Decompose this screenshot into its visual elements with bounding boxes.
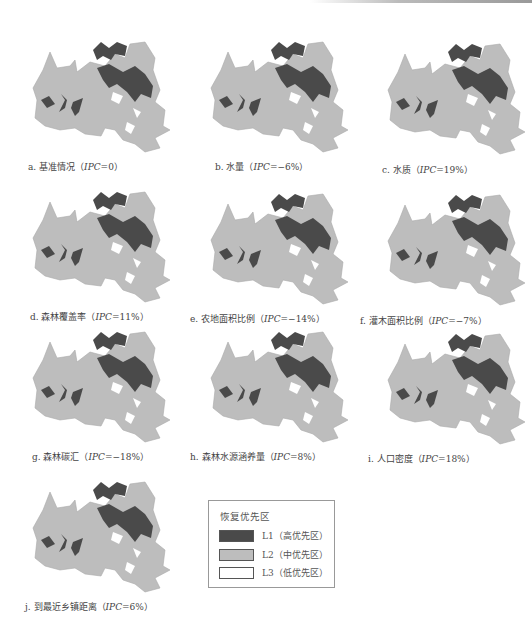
map-caption-a: a. 基准情况（IPC=0）	[28, 160, 123, 173]
map-panel-i	[360, 322, 530, 472]
map-panel-d	[5, 180, 175, 330]
legend-swatch-high	[219, 530, 254, 542]
legend-title: 恢复优先区	[220, 509, 270, 523]
map-shape	[360, 32, 530, 162]
map-shape	[5, 30, 175, 160]
map-panel-e	[183, 182, 353, 332]
map-shape	[360, 183, 530, 313]
legend-item-l3: L3（低优先区）	[219, 566, 328, 579]
page-edge-line	[310, 0, 532, 3]
map-shape	[5, 180, 175, 310]
legend: 恢复优先区 L1（高优先区） L2（中优先区） L3（低优先区）	[208, 500, 335, 588]
map-caption-b: b. 水量（IPC=−6%）	[215, 160, 308, 173]
map-panel-h	[183, 320, 353, 470]
map-panel-j	[5, 470, 175, 617]
legend-label-l3: L3（低优先区）	[262, 566, 328, 579]
legend-item-l2: L2（中优先区）	[219, 548, 328, 561]
legend-item-l1: L1（高优先区）	[219, 529, 328, 542]
legend-label-l2: L2（中优先区）	[262, 548, 328, 561]
map-panel-b	[183, 30, 353, 180]
map-caption-g: g. 森林碳汇（IPC=−18%）	[32, 450, 149, 463]
map-shape	[183, 182, 353, 312]
map-panel-g	[5, 320, 175, 470]
map-shape	[183, 30, 353, 160]
map-shape	[5, 470, 175, 600]
map-shape	[360, 322, 530, 452]
map-panel-a	[5, 30, 175, 180]
map-shape	[183, 320, 353, 450]
map-caption-h: h. 森林水源涵养量（IPC=8%）	[190, 450, 321, 463]
map-panel-f	[360, 183, 530, 333]
map-shape	[5, 320, 175, 450]
legend-label-l1: L1（高优先区）	[262, 529, 328, 542]
map-caption-c: c. 水质（IPC=19%）	[382, 163, 473, 176]
map-panel-c	[360, 32, 530, 182]
map-caption-j: j. 到最近乡镇距离（IPC=6%）	[25, 600, 153, 613]
legend-swatch-low	[219, 567, 254, 579]
map-caption-i: i. 人口密度（IPC=18%）	[368, 452, 475, 465]
legend-swatch-mid	[219, 549, 254, 561]
